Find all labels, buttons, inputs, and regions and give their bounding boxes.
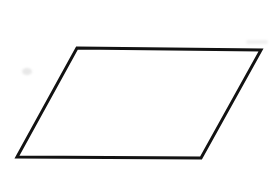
scan-smudge-top-right-icon (246, 40, 268, 44)
scan-smudge-left-icon (22, 68, 32, 75)
figure-canvas (0, 0, 276, 191)
parallelogram-drawing (0, 0, 276, 191)
parallelogram-shape (17, 48, 261, 158)
